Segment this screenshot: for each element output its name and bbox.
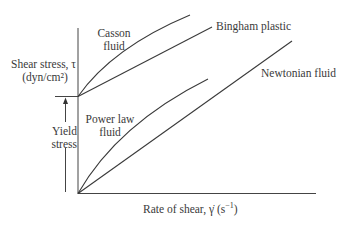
- rheology-diagram: [0, 0, 340, 226]
- casson-label: Casson fluid: [89, 27, 139, 53]
- x-axis-label: Rate of shear, γ̇ (s−1): [143, 199, 238, 216]
- yield-stress-line2: stress: [40, 138, 77, 151]
- y-axis-label-line1: Shear stress, τ: [6, 58, 76, 71]
- power-law-line2: fluid: [85, 126, 135, 139]
- x-axis-exponent: −1: [225, 201, 234, 210]
- yield-stress-line1: Yield: [40, 125, 77, 138]
- casson-line1: Casson: [89, 27, 139, 40]
- casson-line2: fluid: [89, 40, 139, 53]
- bingham-label: Bingham plastic: [216, 20, 291, 33]
- y-axis-label: Shear stress, τ (dyn/cm²): [6, 58, 76, 84]
- x-axis-unit: (s: [214, 203, 225, 215]
- newtonian-label: Newtonian fluid: [261, 67, 336, 80]
- power-law-line1: Power law: [85, 113, 135, 126]
- x-axis-close: ): [234, 203, 238, 215]
- yield-arrow-head-up: [63, 98, 68, 105]
- yield-stress-label: Yield stress: [40, 125, 77, 151]
- y-axis-label-line2: (dyn/cm²): [6, 71, 76, 84]
- power-law-label: Power law fluid: [85, 113, 135, 139]
- x-axis-label-prefix: Rate of shear,: [143, 203, 209, 215]
